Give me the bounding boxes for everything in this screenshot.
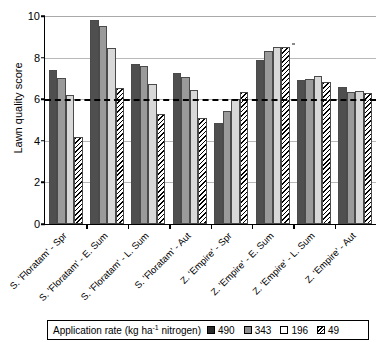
- bar: [90, 20, 99, 224]
- x-tick-mark: [86, 224, 88, 229]
- bar-group: [211, 16, 252, 224]
- legend-label: 490: [218, 325, 235, 336]
- bar: [140, 66, 149, 224]
- bar-group: [86, 16, 127, 224]
- legend-exponent: -1: [153, 324, 159, 331]
- legend-label: 49: [328, 325, 339, 336]
- y-tick-label-6: 6: [34, 93, 40, 105]
- x-tick-mark: [252, 224, 254, 229]
- bar-group: [252, 16, 293, 224]
- bar: [107, 48, 116, 224]
- chart-figure: Lawn quality score 0246810 S. 'Floratam'…: [0, 0, 379, 347]
- bar: [198, 118, 207, 224]
- y-tick-label-10: 10: [28, 10, 40, 22]
- bar: [264, 51, 273, 224]
- bar: [190, 90, 199, 224]
- bar: [66, 95, 75, 224]
- x-tick-mark: [169, 224, 171, 229]
- legend-swatch-icon: [317, 326, 325, 334]
- bar: [157, 114, 166, 224]
- bar: [273, 47, 282, 224]
- bar-group: [169, 16, 210, 224]
- bar-groups: [45, 16, 376, 224]
- x-tick-mark: [211, 224, 213, 229]
- plot-area: 0246810: [44, 16, 376, 225]
- bar: [49, 70, 58, 224]
- y-tick-label-2: 2: [34, 176, 40, 188]
- legend: Application rate (kg ha-1 nitrogen) 4903…: [47, 320, 369, 340]
- bar: [99, 26, 108, 224]
- bar-group: [128, 16, 169, 224]
- reference-line-6: [45, 99, 376, 101]
- bar: [355, 91, 364, 224]
- bar: [231, 99, 240, 224]
- y-tick-label-8: 8: [34, 52, 40, 64]
- bar: [281, 47, 290, 224]
- legend-swatch-icon: [244, 326, 252, 334]
- legend-swatch-icon: [280, 326, 288, 334]
- legend-swatch-icon: [207, 326, 215, 334]
- bar: [173, 73, 182, 224]
- bar: [131, 64, 140, 224]
- bar: [74, 137, 83, 224]
- legend-entry[interactable]: 196: [280, 325, 308, 336]
- x-tick-mark: [335, 224, 337, 229]
- bar: [148, 84, 157, 224]
- bar: [338, 87, 347, 224]
- bar: [240, 92, 249, 224]
- x-axis-labels: S. 'Floratam' - SprS. 'Floratam' - E. Su…: [44, 228, 375, 308]
- legend-entry[interactable]: 49: [317, 325, 339, 336]
- bar: [214, 123, 223, 224]
- bar: [116, 88, 125, 224]
- bar-group: [45, 16, 86, 224]
- y-axis-title: Lawn quality score: [12, 28, 24, 188]
- bar: [322, 82, 331, 224]
- bar: [256, 60, 265, 224]
- legend-entries: 49034319649: [207, 325, 348, 336]
- bar: [364, 93, 373, 224]
- legend-entry[interactable]: 490: [207, 325, 235, 336]
- bar-group: [335, 16, 376, 224]
- legend-entry[interactable]: 343: [244, 325, 272, 336]
- legend-label: 343: [255, 325, 272, 336]
- bar: [347, 92, 356, 224]
- x-axis-label: S. 'Floratam' - E. Sum: [37, 230, 110, 303]
- bar: [297, 80, 306, 224]
- y-tick-label-0: 0: [34, 218, 40, 230]
- legend-label: 196: [291, 325, 308, 336]
- bar-group: [293, 16, 334, 224]
- legend-title: Application rate (kg ha-1 nitrogen): [53, 324, 201, 336]
- x-tick-mark: [128, 224, 130, 229]
- bar: [223, 111, 232, 224]
- x-tick-mark: [293, 224, 295, 229]
- y-tick-label-4: 4: [34, 135, 40, 147]
